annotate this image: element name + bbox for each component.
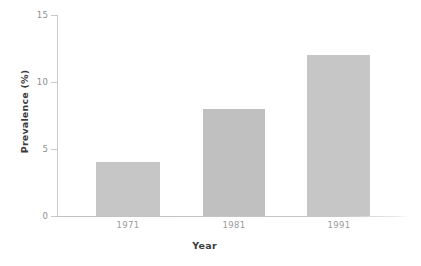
- y-tick-label-0: 0: [8, 212, 48, 221]
- x-tick-label-1971: 1971: [98, 221, 158, 230]
- y-axis-line: [57, 15, 58, 216]
- x-axis-line: [57, 216, 410, 217]
- y-tick-mark-15: [51, 15, 57, 16]
- y-tick-mark-10: [51, 82, 57, 83]
- y-tick-mark-5: [51, 149, 57, 150]
- x-axis-title: Year: [0, 240, 421, 251]
- bar-chart: 15 10 5 0 1971 1981 1991 Year Prevalence…: [0, 0, 421, 266]
- bar-1971: [96, 162, 160, 216]
- x-tick-label-1981: 1981: [204, 221, 264, 230]
- y-tick-label-15: 15: [8, 11, 48, 20]
- bar-1991: [307, 55, 370, 216]
- y-axis-title: Prevalence (%): [19, 32, 30, 192]
- x-tick-label-1991: 1991: [309, 221, 369, 230]
- x-axis-title-text: Year: [192, 240, 217, 251]
- bar-1981: [203, 109, 265, 216]
